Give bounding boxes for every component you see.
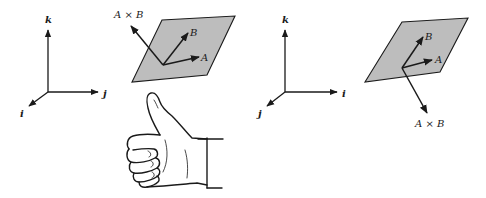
left-b-label: B: [189, 27, 197, 38]
thumb-outline: [147, 93, 207, 139]
hand-contour: [185, 150, 188, 178]
crease: [163, 140, 167, 172]
left-a-label: A: [200, 52, 208, 63]
left-i-label: i: [20, 108, 24, 119]
left-plane: [132, 16, 235, 82]
left-axes: k j i: [20, 14, 107, 119]
cross-product-figure: k j i A B A × B: [0, 0, 486, 198]
nail-2: [151, 161, 153, 167]
right-i-label: i: [342, 88, 346, 99]
right-plane: [365, 18, 468, 82]
finger-1: [127, 149, 158, 163]
finger-3: [133, 168, 160, 182]
right-plane-group: A B A × B: [365, 18, 468, 129]
left-cross-label: A × B: [113, 9, 143, 20]
right-j-axis-arrow: [267, 92, 285, 106]
right-cross-label: A × B: [414, 118, 444, 129]
right-j-label: j: [256, 108, 262, 119]
fist-top: [127, 134, 160, 149]
nail-3: [152, 172, 154, 178]
right-axes: k i j: [256, 14, 346, 119]
left-k-label: k: [45, 14, 52, 25]
left-i-axis-arrow: [29, 92, 48, 106]
right-k-label: k: [282, 14, 289, 25]
left-plane-group: A B A × B: [113, 9, 235, 82]
right-a-label: A: [434, 54, 442, 65]
finger-2: [129, 158, 159, 173]
left-j-label: j: [101, 88, 107, 99]
right-b-label: B: [424, 31, 432, 42]
right-hand-illustration: [127, 93, 223, 188]
nail-1: [148, 151, 151, 157]
thumb-nail: [154, 100, 158, 108]
